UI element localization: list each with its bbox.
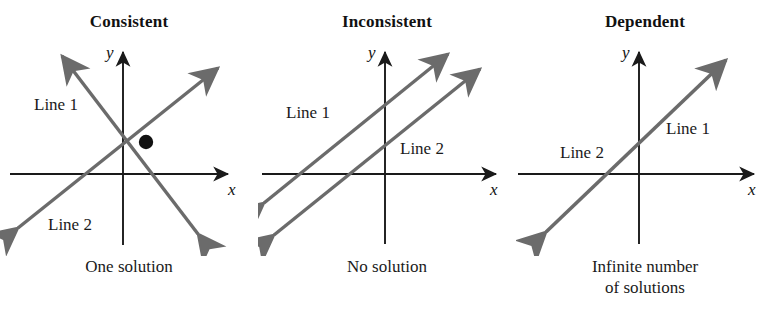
line-2-label-inconsistent: Line 2 xyxy=(400,140,444,158)
line-2-label-dependent: Line 2 xyxy=(560,144,604,162)
systems-of-equations-figure: Consistent xyxy=(0,0,775,311)
caption-text: One solution xyxy=(85,257,172,276)
panel-consistent: Consistent xyxy=(0,0,258,311)
line-1-label-inconsistent: Line 1 xyxy=(286,104,330,122)
line-2-label-consistent: Line 2 xyxy=(48,216,92,234)
x-axis-label-consistent: x xyxy=(228,181,236,198)
line-1-label-consistent: Line 1 xyxy=(34,96,78,114)
panel-title-inconsistent: Inconsistent xyxy=(258,12,516,32)
panel-title-dependent: Dependent xyxy=(516,12,774,32)
y-axis-label-inconsistent: y xyxy=(368,44,376,61)
panel-inconsistent: Inconsistent xyxy=(258,0,516,311)
line-1-label-dependent: Line 1 xyxy=(666,120,710,138)
caption-text-line2: of solutions xyxy=(516,277,774,298)
line-2-consistent xyxy=(18,68,218,228)
plot-dependent xyxy=(516,36,774,256)
caption-text: Infinite number xyxy=(592,257,698,276)
y-axis-label-dependent: y xyxy=(622,44,630,61)
line-2-inconsistent xyxy=(274,69,480,235)
panel-caption-dependent: Infinite number of solutions xyxy=(516,256,774,298)
intersection-point xyxy=(139,135,153,149)
caption-text: No solution xyxy=(347,257,427,276)
panel-dependent: Dependent xyxy=(516,0,774,311)
panel-title-consistent: Consistent xyxy=(0,12,258,32)
x-axis-label-inconsistent: x xyxy=(490,181,498,198)
panel-caption-consistent: One solution xyxy=(0,256,258,277)
y-axis-label-consistent: y xyxy=(106,44,114,61)
panel-caption-inconsistent: No solution xyxy=(258,256,516,277)
x-axis-label-dependent: x xyxy=(748,181,756,198)
plot-consistent xyxy=(0,36,258,256)
plot-inconsistent xyxy=(258,36,516,256)
line-1-consistent xyxy=(62,56,198,234)
line-1-inconsistent xyxy=(264,54,448,203)
